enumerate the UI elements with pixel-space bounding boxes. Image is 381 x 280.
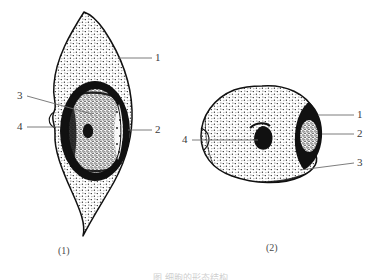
figure-2-drawing (201, 81, 322, 189)
label-figure2-3: 3 (357, 157, 363, 168)
figure-2-lobe-core (300, 120, 318, 152)
figure-1-drawing (49, 12, 132, 236)
label-figure1-4: 4 (17, 121, 23, 132)
caption-figure-1: (1) (58, 246, 70, 256)
label-figure1-1: 1 (155, 52, 161, 63)
label-figure2-4: 4 (182, 134, 188, 145)
caption-figure-2: (2) (266, 243, 278, 253)
bottom-caption: 图 细胞的形态结构 (0, 271, 381, 280)
label-figure1-3: 3 (17, 90, 23, 101)
label-figure2-2: 2 (357, 128, 363, 139)
label-figure2-1: 1 (357, 109, 363, 120)
figure-1-nucleolus (83, 124, 93, 138)
label-figure1-2: 2 (155, 124, 161, 135)
